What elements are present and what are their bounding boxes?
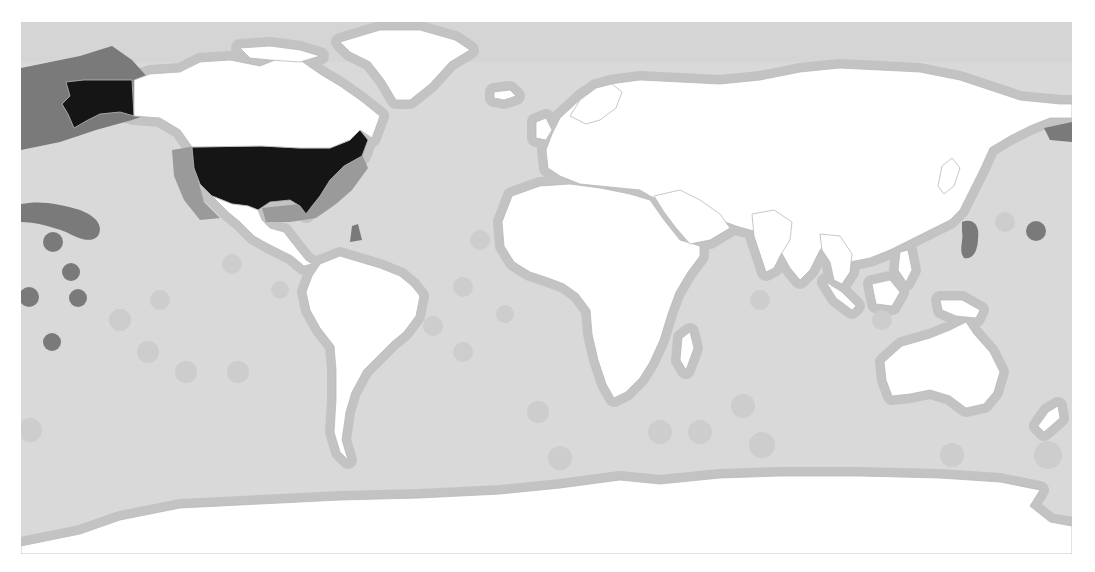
map-canvas [21, 22, 1072, 554]
minor-eez-circle [470, 230, 490, 250]
american-samoa-eez [43, 333, 61, 351]
kingman-palmyra-eez [62, 263, 80, 281]
minor-eez-circle [995, 212, 1015, 232]
minor-eez-circle [137, 341, 159, 363]
minor-eez-circle [109, 309, 131, 331]
minor-eez-circle [175, 361, 197, 383]
jarvis-island-eez [69, 289, 87, 307]
wake-island-eez [1026, 221, 1046, 241]
minor-eez-circle [688, 420, 712, 444]
johnston-atoll-eez [43, 232, 63, 252]
minor-eez-circle [872, 310, 892, 330]
minor-eez-circle [527, 401, 549, 423]
minor-eez-circle [648, 420, 672, 444]
minor-eez-circle [1034, 441, 1062, 469]
world-map [21, 22, 1072, 554]
minor-eez-circle [750, 290, 770, 310]
minor-eez-circle [222, 254, 242, 274]
minor-eez-circle [227, 361, 249, 383]
minor-eez-circle [423, 316, 443, 336]
minor-eez-circle [548, 446, 572, 470]
minor-eez-circle [453, 277, 473, 297]
minor-eez-circle [150, 290, 170, 310]
minor-eez-circle [496, 305, 514, 323]
minor-eez-circle [453, 342, 473, 362]
minor-eez-circle [271, 281, 289, 299]
minor-eez-circle [749, 432, 775, 458]
minor-eez-circle [940, 443, 964, 467]
minor-eez-circle [731, 394, 755, 418]
arctic-band [21, 22, 1072, 62]
